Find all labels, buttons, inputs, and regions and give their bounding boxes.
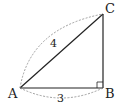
vertex-label-b: B [105, 86, 115, 101]
right-angle-mark [97, 82, 103, 88]
vertex-label-c: C [105, 1, 115, 16]
vertex-label-a: A [7, 86, 18, 101]
length-label-ab: 3 [57, 92, 64, 105]
length-label-ac: 4 [50, 37, 57, 50]
triangle-diagram: A B C 3 4 [0, 0, 127, 106]
side-ac [20, 14, 103, 88]
